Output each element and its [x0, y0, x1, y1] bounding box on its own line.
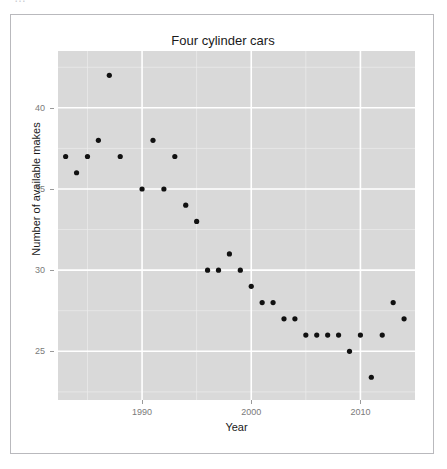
data-point	[260, 300, 265, 305]
data-point	[205, 268, 210, 273]
data-point	[292, 316, 297, 321]
data-point	[161, 186, 166, 191]
y-axis-tick-mark	[50, 189, 54, 190]
figure-frame: Four cylinder cars 25303540 199020002010…	[10, 14, 434, 454]
plot-panel	[58, 51, 415, 400]
x-axis-title: Year	[58, 421, 415, 433]
data-point	[380, 332, 385, 337]
x-axis-tick-label: 2000	[241, 407, 261, 417]
scatter-plot-canvas	[58, 51, 415, 400]
data-point	[281, 316, 286, 321]
data-point	[401, 316, 406, 321]
data-point	[227, 251, 232, 256]
data-point	[336, 332, 341, 337]
data-point	[85, 154, 90, 159]
data-point	[194, 219, 199, 224]
data-point	[238, 268, 243, 273]
y-axis-title: Number of available makes	[30, 79, 42, 299]
x-axis-tick-layer: 199020002010	[58, 400, 415, 422]
data-point	[172, 154, 177, 159]
data-point	[216, 268, 221, 273]
chart-title: Four cylinder cars	[11, 33, 435, 48]
data-point	[139, 186, 144, 191]
x-axis-tick-mark	[360, 400, 361, 404]
clipped-top-text-strip: …	[0, 0, 447, 12]
data-point	[74, 170, 79, 175]
y-axis-tick-label: 25	[35, 346, 45, 356]
x-axis-tick-label: 1990	[132, 407, 152, 417]
x-axis-tick-label: 2010	[350, 407, 370, 417]
data-point	[358, 332, 363, 337]
y-axis-tick-mark	[50, 270, 54, 271]
y-axis-tick-mark	[50, 108, 54, 109]
data-point	[96, 138, 101, 143]
x-axis-tick-mark	[251, 400, 252, 404]
data-point	[63, 154, 68, 159]
data-point	[369, 375, 374, 380]
y-axis-tick-mark	[50, 351, 54, 352]
x-axis-tick-mark	[142, 400, 143, 404]
data-point	[150, 138, 155, 143]
data-point	[325, 332, 330, 337]
data-point	[183, 203, 188, 208]
data-point	[249, 284, 254, 289]
data-point	[118, 154, 123, 159]
data-point	[303, 332, 308, 337]
data-point	[347, 349, 352, 354]
clipped-text: …	[14, 0, 26, 5]
data-point	[314, 332, 319, 337]
data-point	[270, 300, 275, 305]
data-point	[107, 73, 112, 78]
data-point	[391, 300, 396, 305]
